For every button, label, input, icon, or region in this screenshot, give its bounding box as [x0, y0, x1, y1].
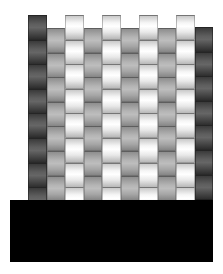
white-strip-tile — [65, 163, 84, 188]
dark-strip-tile — [195, 27, 213, 52]
white-strip-tile — [176, 89, 195, 114]
white-strip-tile — [176, 113, 195, 138]
gray-strip-tile — [158, 102, 176, 127]
white-strip-tile — [65, 138, 84, 163]
gray-strip-tile — [47, 151, 65, 176]
dark-strip-tile — [28, 40, 47, 65]
dark-strip-tile — [28, 64, 47, 89]
white-strip-tile — [176, 138, 195, 163]
gray-strip-tile — [47, 126, 65, 151]
white-strip-tile — [102, 163, 121, 188]
gray-strip-tile — [121, 28, 139, 53]
dark-strip-tile — [195, 125, 213, 150]
gray-strip-tile — [158, 77, 176, 102]
dark-strip-tile — [195, 150, 213, 175]
white-strip-tile — [65, 64, 84, 89]
white-strip-tile — [102, 40, 121, 65]
gray-strip-tile — [84, 151, 102, 176]
dark-strip-tile — [195, 52, 213, 77]
gray-strip-tile — [47, 102, 65, 127]
dark-strip-column — [28, 15, 47, 212]
white-strip-tile — [139, 40, 158, 65]
white-strip-tile — [102, 138, 121, 163]
dark-strip-tile — [28, 163, 47, 188]
gray-strip-tile — [47, 28, 65, 53]
gray-strip-tile — [47, 77, 65, 102]
gray-strip-tile — [84, 102, 102, 127]
gray-strip-tile — [121, 102, 139, 127]
white-strip-tile — [176, 163, 195, 188]
gray-strip-tile — [47, 176, 65, 201]
gray-strip-column — [158, 28, 176, 200]
gray-strip-tile — [121, 126, 139, 151]
gray-strip-tile — [84, 77, 102, 102]
white-strip-tile — [102, 64, 121, 89]
white-strip-tile — [139, 138, 158, 163]
white-strip-tile — [65, 89, 84, 114]
white-strip-tile — [176, 64, 195, 89]
dark-strip-tile — [195, 175, 213, 200]
white-strip-tile — [139, 64, 158, 89]
white-strip-tile — [176, 15, 195, 40]
dark-strip-tile — [195, 76, 213, 101]
dark-strip-tile — [195, 101, 213, 126]
white-strip-column — [102, 15, 121, 212]
white-strip-tile — [139, 113, 158, 138]
dark-strip-column — [195, 27, 213, 200]
white-strip-tile — [102, 113, 121, 138]
gray-strip-tile — [84, 176, 102, 201]
gray-strip-tile — [121, 53, 139, 78]
white-strip-column — [176, 15, 195, 212]
gray-strip-tile — [84, 28, 102, 53]
white-strip-tile — [102, 15, 121, 40]
white-strip-tile — [65, 15, 84, 40]
white-strip-tile — [102, 89, 121, 114]
gray-strip-column — [121, 28, 139, 200]
gray-strip-tile — [158, 126, 176, 151]
black-base-block — [10, 200, 213, 262]
gray-strip-tile — [158, 151, 176, 176]
gray-strip-tile — [121, 151, 139, 176]
gray-strip-column — [47, 28, 65, 200]
gray-strip-tile — [84, 53, 102, 78]
gray-strip-tile — [158, 28, 176, 53]
gray-strip-column — [84, 28, 102, 200]
gray-strip-tile — [158, 53, 176, 78]
gray-strip-tile — [47, 53, 65, 78]
dark-strip-tile — [28, 138, 47, 163]
white-strip-column — [65, 15, 84, 212]
gray-strip-tile — [158, 176, 176, 201]
gray-strip-tile — [84, 126, 102, 151]
white-strip-tile — [139, 89, 158, 114]
white-strip-column — [139, 15, 158, 212]
dark-strip-tile — [28, 113, 47, 138]
white-strip-tile — [65, 40, 84, 65]
white-strip-tile — [139, 15, 158, 40]
white-strip-tile — [176, 40, 195, 65]
gray-strip-tile — [121, 77, 139, 102]
dark-strip-tile — [28, 15, 47, 40]
white-strip-tile — [65, 113, 84, 138]
dark-strip-tile — [28, 89, 47, 114]
white-strip-tile — [139, 163, 158, 188]
gray-strip-tile — [121, 176, 139, 201]
